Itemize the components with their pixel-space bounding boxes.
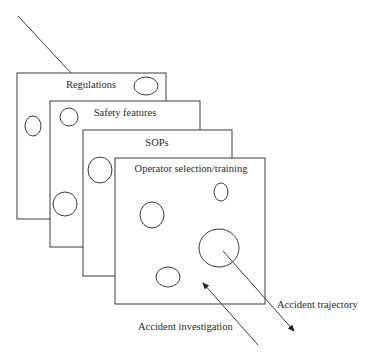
hole-icon	[214, 183, 228, 201]
incoming-hazard-line	[18, 16, 71, 73]
layer-label: Safety features	[94, 107, 157, 118]
hole-icon	[140, 202, 164, 228]
swiss-cheese-diagram: Regulations Safety features SOPs Operato…	[0, 0, 376, 361]
hole-icon	[88, 157, 112, 183]
hole-icon	[156, 267, 180, 287]
layer-label: SOPs	[145, 137, 168, 148]
hole-icon	[53, 192, 77, 216]
layer-operator-selection-training: Operator selection/training	[115, 158, 265, 304]
accident-trajectory-label: Accident trajectory	[277, 299, 358, 310]
hole-icon	[25, 116, 41, 136]
layer-label: Regulations	[66, 79, 116, 90]
hole-icon	[134, 77, 158, 95]
hole-icon	[60, 108, 78, 126]
layer-label: Operator selection/training	[135, 163, 249, 174]
accident-investigation-label: Accident investigation	[138, 321, 234, 332]
hole-icon	[199, 229, 239, 267]
